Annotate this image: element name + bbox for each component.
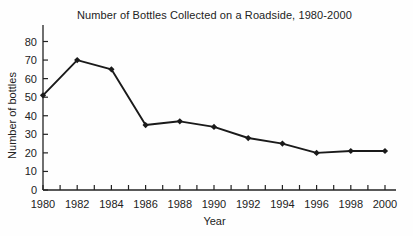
- x-tick-label: 1982: [65, 198, 89, 210]
- y-tick-label: 20: [25, 147, 37, 159]
- plot-area: 0102030405060708019801982198419861988199…: [0, 0, 413, 236]
- y-tick-label: 80: [25, 36, 37, 48]
- data-point-marker: [211, 124, 217, 130]
- data-point-marker: [279, 140, 285, 146]
- data-point-marker: [382, 148, 388, 154]
- y-tick-label: 60: [25, 73, 37, 85]
- x-tick-label: 1988: [168, 198, 192, 210]
- y-tick-label: 30: [25, 128, 37, 140]
- y-tick-label: 70: [25, 54, 37, 66]
- x-tick-label: 1994: [270, 198, 294, 210]
- data-point-marker: [177, 118, 183, 124]
- x-tick-label: 1996: [304, 198, 328, 210]
- data-line: [43, 60, 385, 153]
- x-tick-label: 1980: [31, 198, 55, 210]
- y-tick-label: 10: [25, 165, 37, 177]
- y-tick-label: 0: [31, 184, 37, 196]
- x-tick-label: 1984: [99, 198, 123, 210]
- x-tick-label: 1986: [133, 198, 157, 210]
- line-chart: Number of Bottles Collected on a Roadsid…: [0, 0, 413, 236]
- y-tick-label: 40: [25, 110, 37, 122]
- x-tick-label: 1998: [339, 198, 363, 210]
- x-tick-label: 2000: [373, 198, 397, 210]
- data-point-marker: [245, 135, 251, 141]
- data-point-marker: [348, 148, 354, 154]
- data-point-marker: [314, 150, 320, 156]
- x-tick-label: 1990: [202, 198, 226, 210]
- y-tick-label: 50: [25, 91, 37, 103]
- x-tick-label: 1992: [236, 198, 260, 210]
